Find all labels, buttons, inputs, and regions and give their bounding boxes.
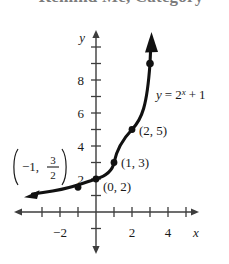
fraction-label-open-paren-icon — [14, 149, 18, 185]
function-curve-group — [24, 32, 158, 199]
point-label-2-5: (2, 5) — [139, 123, 167, 138]
y-tick-label-8: 8 — [78, 73, 85, 88]
point-label-0-2: (0, 2) — [103, 179, 131, 194]
point-1-3 — [111, 159, 118, 166]
x-tick-label--2: −2 — [53, 225, 67, 240]
fraction-label-numerator: 3 — [50, 154, 56, 166]
point-label-1-3: (1, 3) — [121, 155, 149, 170]
svg-text:y=2x+1: y=2x+1 — [154, 87, 205, 102]
point-2-5 — [129, 126, 136, 133]
x-tick-label-2: 2 — [129, 225, 136, 240]
axes-group — [14, 30, 199, 254]
equation-equals-sign: = — [165, 87, 172, 102]
x-axis-left-arrow-icon — [14, 208, 22, 215]
exponential-function-graph: −2 2 4 2 4 6 8 y x (2, 5) (1, 3) (0 — [0, 0, 229, 264]
x-axis-label: x — [192, 225, 199, 240]
fraction-label-denominator: 2 — [50, 169, 56, 181]
figure-page: – Remind Me, Category — [0, 0, 229, 264]
x-axis-right-arrow-icon — [191, 208, 199, 215]
fraction-label-close-paren-icon — [62, 149, 66, 185]
y-axis-bottom-arrow-icon — [92, 246, 99, 254]
y-axis-label: y — [77, 30, 85, 45]
equation-plus-sign: + — [189, 87, 196, 102]
curve-left-arrow-icon — [24, 190, 40, 199]
fraction-label-x-part: −1, — [22, 159, 39, 174]
curve-right-arrow-icon — [145, 32, 158, 53]
equation-constant: 1 — [199, 87, 206, 102]
point-label-neg1-three-halves: −1, 3 2 — [14, 149, 66, 185]
y-axis-top-arrow-icon — [92, 30, 99, 38]
y-tick-label-4: 4 — [78, 139, 85, 154]
point-neg1-three-halves — [75, 184, 82, 191]
equation-exponent: x — [181, 87, 186, 97]
point-0-2 — [93, 176, 100, 183]
equation-lhs: y — [154, 87, 162, 102]
equation-label-group: y=2x+1 — [154, 87, 205, 102]
point-3-9 — [146, 60, 154, 68]
y-tick-label-6: 6 — [78, 106, 85, 121]
x-tick-label-4: 4 — [165, 225, 172, 240]
